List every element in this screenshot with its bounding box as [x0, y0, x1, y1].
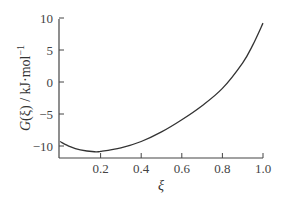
axes	[59, 19, 263, 158]
y-tick-label: 5	[47, 43, 54, 58]
y-tick-label: −5	[39, 107, 53, 122]
g-xi-curve	[60, 23, 263, 152]
y-axis-title: G(ξ) / kJ·mol−1	[15, 45, 34, 131]
y-tick-label: 0	[47, 75, 54, 90]
chart: 1050−5−10 0.20.40.60.81.0 ξ G(ξ) / kJ·mo…	[0, 0, 283, 202]
x-tick-label: 1.0	[255, 161, 271, 176]
x-axis-title: ξ	[158, 178, 164, 193]
x-tick-label: 0.8	[214, 161, 230, 176]
x-tick-label: 0.6	[174, 161, 191, 176]
data-line	[60, 23, 263, 152]
y-tick-label: 10	[40, 11, 53, 26]
y-tick-label: −10	[33, 139, 53, 154]
x-axis-ticks: 0.20.40.60.81.0	[92, 153, 271, 176]
x-tick-label: 0.2	[92, 161, 108, 176]
x-tick-label: 0.4	[133, 161, 150, 176]
